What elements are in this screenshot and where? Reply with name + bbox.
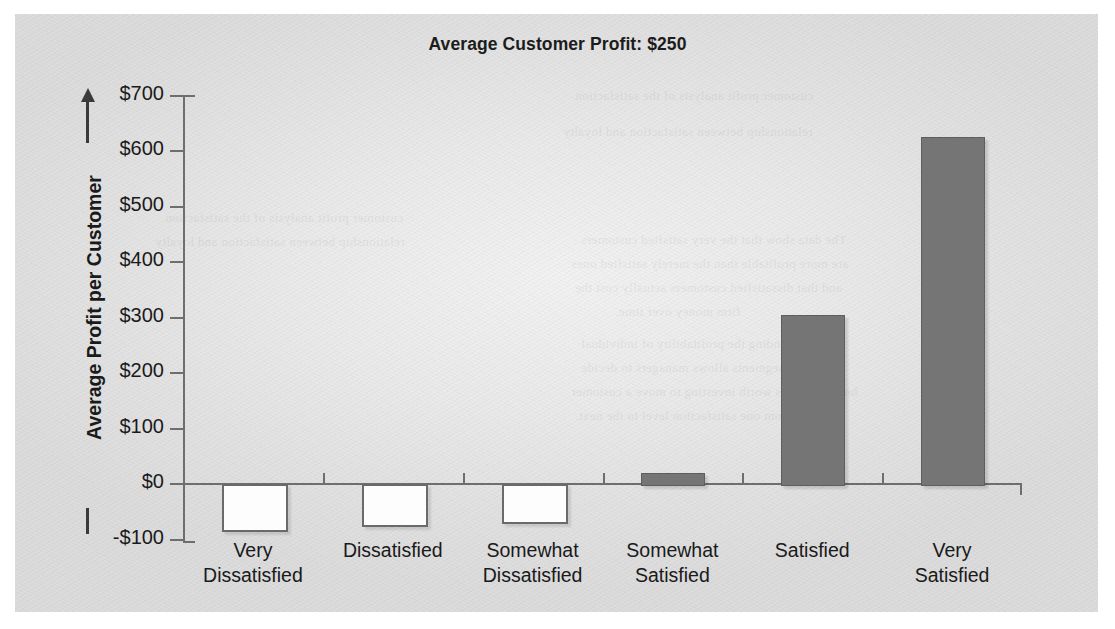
category-label-line: Dissatisfied (183, 563, 323, 588)
y-axis-line (183, 95, 185, 543)
plot-area: Average Profit per Customer $700$600$500… (0, 0, 1115, 629)
category-label: SomewhatSatisfied (603, 538, 743, 588)
category-label-line: Somewhat (463, 538, 603, 563)
y-axis-tick (170, 483, 183, 485)
category-label-line: Satisfied (742, 538, 882, 563)
y-axis-tick (170, 206, 183, 208)
y-axis-tick (170, 317, 183, 319)
y-axis-tick (170, 539, 183, 541)
y-axis-tick-label: $300 (60, 304, 164, 327)
y-axis-tick-label: -$100 (60, 526, 164, 549)
y-axis-tick (170, 261, 183, 263)
x-axis-tick (882, 473, 884, 484)
y-axis-tick-label: $200 (60, 359, 164, 382)
y-axis-tick-label: $0 (60, 470, 164, 493)
y-axis-tick (170, 150, 183, 152)
y-axis-tick (170, 372, 183, 374)
y-axis-tick-label: $500 (60, 193, 164, 216)
category-label-line: Somewhat (603, 538, 743, 563)
category-label: Satisfied (742, 538, 882, 563)
x-axis-tick (323, 473, 325, 484)
y-axis-tick (170, 428, 183, 430)
category-label: VerySatisfied (882, 538, 1022, 588)
bar-satisfied (781, 315, 845, 486)
x-axis-tick (463, 473, 465, 484)
category-label-line: Very (183, 538, 323, 563)
category-label-line: Dissatisfied (463, 563, 603, 588)
category-label-line: Satisfied (882, 563, 1022, 588)
y-axis-top-cap (183, 95, 195, 97)
x-axis-end-tick (1020, 483, 1022, 495)
category-label-line: Very (882, 538, 1022, 563)
y-axis-tick (170, 95, 183, 97)
bar-dissatisfied (362, 484, 428, 527)
x-axis-tick (603, 473, 605, 484)
y-axis-tick-label: $600 (60, 137, 164, 160)
category-label: VeryDissatisfied (183, 538, 323, 588)
category-label: SomewhatDissatisfied (463, 538, 603, 588)
category-label: Dissatisfied (323, 538, 463, 563)
y-axis-tick-label: $400 (60, 248, 164, 271)
bar-somewhat-dissatisfied (502, 484, 568, 524)
y-axis-tick-label: $700 (60, 82, 164, 105)
bar-very-dissatisfied (222, 484, 288, 532)
bar-very-satisfied (921, 137, 985, 486)
x-axis-tick (742, 473, 744, 484)
bar-somewhat-satisfied (641, 473, 705, 486)
category-label-line: Satisfied (603, 563, 743, 588)
category-label-line: Dissatisfied (323, 538, 463, 563)
y-axis-tick-label: $100 (60, 415, 164, 438)
